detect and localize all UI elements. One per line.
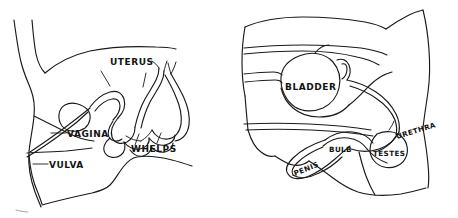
label-uterus: UTERUS [110, 57, 154, 67]
label-vulva: VULVA [49, 160, 84, 170]
label-whelps: WHELPS [131, 144, 177, 154]
uterus-leader-line [101, 71, 110, 86]
label-bladder: BLADDER [285, 82, 336, 92]
male-body-outline [242, 10, 430, 195]
uterus-leader-line-right [143, 73, 146, 87]
uterus-horns-drawing [27, 61, 189, 157]
label-vagina: VAGINA [67, 129, 109, 139]
anatomy-figure: UTERUS VAGINA VULVA WHELPS [0, 0, 458, 218]
label-bulb: BULB [329, 145, 352, 154]
female-body-outline [14, 20, 192, 212]
label-urethra: URETHRA [395, 120, 437, 141]
female-reproductive-diagram: UTERUS VAGINA VULVA WHELPS [0, 0, 229, 218]
label-testes: TESTES [373, 149, 405, 158]
male-reproductive-diagram: BLADDER URETHRA BULB TESTES PENIS [229, 0, 458, 218]
